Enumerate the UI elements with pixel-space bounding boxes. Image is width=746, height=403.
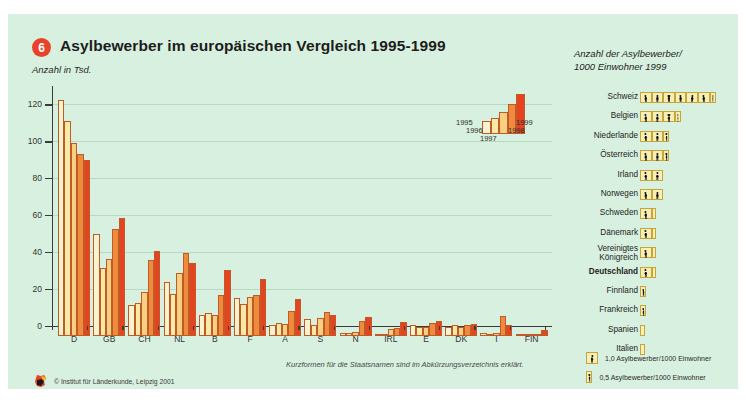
pictogram-cell [675,92,687,103]
person-icon [702,95,705,103]
pictogram-row: Deutschland [574,267,746,278]
figure-number-badge: 6 [32,38,51,57]
person-icon [667,114,670,122]
bar-group [269,96,301,336]
pictogram-panel: Anzahl der Asylbewerber/ 1000 Einwohner … [574,48,746,73]
pictogram-country-label: Niederlande [564,131,638,142]
pictogram-cell [640,150,652,161]
pictogram-cell [640,267,652,278]
pictogram-row: VereinigtesKönigreich [574,247,746,258]
year-legend: 19951996199719981999 [456,96,552,156]
pictogram-row: Dänemark [574,228,746,239]
bar-group [128,96,160,336]
bar [84,160,90,336]
person-icon [656,153,659,161]
person-icon [644,230,647,238]
legend-item: 1,0 Asylbewerber/1000 Einwohner [586,352,711,364]
pictogram-cell [640,247,652,258]
pictogram-cell [652,131,664,142]
chart-unit-label: Anzahl in Tsd. [32,64,91,75]
person-icon [588,374,590,382]
bar-group [58,96,90,336]
pictogram-cell [675,111,681,122]
person-icon [644,211,647,219]
bar-group [375,96,407,336]
pictogram-row: Niederlande [574,131,746,142]
bar-group [93,96,125,336]
pictogram-row: Irland [574,170,746,181]
x-axis-label: I [476,334,516,344]
pictogram-cell [652,208,657,219]
bar-group [164,96,196,336]
pictogram-country-label: Schweden [564,208,638,219]
figure-panel: 6 Asylbewerber im europäischen Vergleich… [8,14,738,389]
pictogram-cell [663,150,669,161]
x-axis-tick [122,326,123,330]
person-icon [644,250,647,258]
y-axis-tick [45,289,52,290]
pictogram-cell [652,111,664,122]
x-axis-label: FIN [512,334,552,344]
pictogram-cell [652,92,664,103]
x-axis-label: N [336,334,376,344]
x-axis-label: CH [124,334,164,344]
person-icon [591,355,594,363]
pictogram-row: Schweiz [574,92,746,103]
x-axis-tick [87,326,88,330]
x-axis-tick [369,326,370,330]
pictogram-row: Schweden [574,208,746,219]
y-axis-label: 60 [18,210,42,220]
pictogram-cell [640,325,645,336]
pictogram-cell [640,111,652,122]
pictogram-cell [640,286,646,297]
x-axis-tick [545,326,546,330]
person-icon [642,308,644,316]
x-axis-tick [263,326,264,330]
x-axis-tick [474,326,475,330]
x-axis-label: S [300,334,340,344]
x-axis-label: F [230,334,270,344]
y-axis-label: 40 [18,247,42,257]
person-icon [644,133,647,141]
y-axis-tick [45,104,52,105]
person-icon [677,114,679,122]
x-axis-tick [228,326,229,330]
x-axis-label: E [406,334,446,344]
pictogram-country-label: Deutschland [564,267,638,278]
pictogram-cell [652,228,657,239]
source-text: © Institut für Länderkunde, Leipzig 2001 [54,378,175,385]
person-icon [644,95,647,103]
x-axis-label: A [265,334,305,344]
pictogram-cell [663,92,675,103]
person-icon [667,95,670,103]
person-icon [644,153,647,161]
x-axis-tick [193,326,194,330]
legend-text: 1,0 Asylbewerber/1000 Einwohner [605,355,711,362]
pictogram-row: Finnland [574,286,746,297]
pictogram-cell [652,170,664,181]
pictogram-cell [686,92,698,103]
bar [119,218,125,336]
pictogram-country-label: VereinigtesKönigreich [564,244,638,262]
pictogram-row: Spanien [574,325,746,336]
x-axis-tick [510,326,511,330]
person-icon [656,114,659,122]
person-icon [712,95,714,103]
legend-year-label: 1997 [480,134,497,143]
y-axis-tick [45,326,52,327]
legend-item: 0,5 Asylbewerber/1000 Einwohner [586,371,706,383]
person-icon [656,95,659,103]
person-icon [656,172,659,180]
germany-map-icon [32,374,49,389]
pictogram-cell [652,150,664,161]
person-icon [665,153,667,161]
pictogram-cell [663,111,675,122]
pictogram-row: Belgien [574,111,746,122]
pictogram-country-label: Belgien [564,111,638,122]
pictogram-cell [640,208,652,219]
x-axis-tick [334,326,335,330]
bar-group [199,96,231,336]
x-axis-label: IRL [371,334,411,344]
page-title: Asylbewerber im europäischen Vergleich 1… [60,37,446,55]
person-icon [642,289,644,297]
